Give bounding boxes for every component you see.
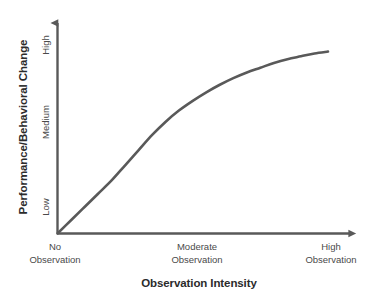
- x-tick-label-high-observation-line2: Observation: [305, 254, 356, 267]
- x-tick-label-moderate-observation: Moderate Observation: [171, 241, 222, 266]
- data-curve-performance: [58, 52, 329, 234]
- y-axis-title: Performance/Behavioral Change: [17, 40, 29, 215]
- x-tick-label-no-observation-line1: No: [29, 241, 80, 254]
- x-tick-label-no-observation-line2: Observation: [29, 254, 80, 267]
- y-tick-label-high: High: [40, 35, 51, 55]
- y-tick-label-medium: Medium: [40, 105, 51, 139]
- x-tick-label-high-observation-line1: High: [305, 241, 356, 254]
- x-tick-label-moderate-observation-line2: Observation: [171, 254, 222, 267]
- x-tick-label-no-observation: No Observation: [29, 241, 80, 266]
- y-tick-label-low: Low: [40, 198, 51, 215]
- x-axis-title: Observation Intensity: [141, 277, 256, 289]
- x-tick-label-moderate-observation-line1: Moderate: [171, 241, 222, 254]
- chart-container: Performance/Behavioral Change High Mediu…: [0, 0, 379, 301]
- x-tick-label-high-observation: High Observation: [305, 241, 356, 266]
